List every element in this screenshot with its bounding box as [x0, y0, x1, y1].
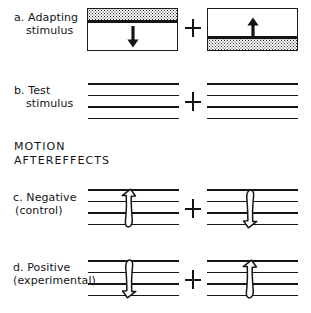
label-adapting-stimulus-line1: a. Adapting	[14, 12, 78, 25]
arrow-up-icon	[246, 17, 260, 39]
divider-rule	[88, 20, 177, 23]
row-adapting-stimulus: a. Adapting stimulus	[0, 0, 311, 72]
adapting-stimulus-left-panel	[87, 8, 178, 51]
curved-arrow-up-icon	[119, 186, 139, 230]
label-positive-aftereffect-line1: d. Positive	[13, 262, 96, 275]
test-stimulus-left-panel	[88, 83, 179, 131]
label-positive-aftereffect-line2: (experimental)	[13, 275, 96, 288]
label-adapting-stimulus: a. Adapting stimulus	[14, 12, 78, 37]
grating-line	[88, 106, 179, 108]
separator-plus-b	[185, 92, 201, 111]
arrow-down-icon	[126, 26, 140, 48]
label-negative-aftereffect: c. Negative (control)	[13, 192, 77, 217]
label-positive-aftereffect: d. Positive (experimental)	[13, 262, 96, 287]
adapting-stimulus-right-panel	[207, 8, 298, 51]
separator-plus-c	[185, 199, 201, 218]
label-adapting-stimulus-line2: stimulus	[14, 25, 78, 38]
stipple-band-icon	[88, 9, 177, 20]
row-positive-aftereffect: d. Positive (experimental)	[0, 252, 311, 313]
section-heading-line2: AFTEREFFECTS	[14, 154, 110, 168]
separator-plus-a	[185, 19, 201, 37]
row-negative-aftereffect: c. Negative (control)	[0, 180, 311, 242]
grating-line	[207, 106, 298, 108]
grating-line	[207, 83, 298, 85]
separator-plus-d	[185, 270, 201, 289]
label-negative-aftereffect-line2: (control)	[13, 205, 77, 218]
grating-line	[207, 118, 298, 120]
motion-aftereffects-figure: a. Adapting stimulus	[0, 0, 311, 313]
negative-aftereffect-left-panel	[88, 189, 179, 237]
grating-line	[88, 83, 179, 85]
grating-line	[88, 95, 179, 97]
positive-aftereffect-left-panel	[88, 260, 179, 308]
section-heading-motion-aftereffects: MOTION AFTEREFFECTS	[14, 140, 110, 168]
test-stimulus-right-panel	[207, 83, 298, 131]
curved-arrow-down-icon	[119, 257, 139, 301]
negative-aftereffect-right-panel	[207, 189, 298, 237]
label-test-stimulus-line2: stimulus	[14, 98, 73, 111]
label-test-stimulus-line1: b. Test	[14, 85, 73, 98]
label-test-stimulus: b. Test stimulus	[14, 85, 73, 110]
positive-aftereffect-right-panel	[207, 260, 298, 308]
grating-line	[88, 118, 179, 120]
stipple-band-icon	[208, 39, 297, 50]
curved-arrow-down-icon	[240, 187, 260, 231]
row-test-stimulus: b. Test stimulus	[0, 72, 311, 132]
curved-arrow-up-icon	[240, 257, 260, 301]
section-heading-line1: MOTION	[14, 140, 110, 154]
grating-line	[207, 95, 298, 97]
label-negative-aftereffect-line1: c. Negative	[13, 192, 77, 205]
